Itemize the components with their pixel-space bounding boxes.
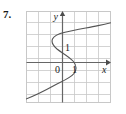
y-axis-label: y bbox=[53, 11, 59, 22]
problem-number: 7. bbox=[3, 9, 11, 20]
exercise-figure-container: 7. bbox=[0, 0, 126, 114]
y-unit-label: 1 bbox=[65, 42, 70, 53]
graph-figure: 0 1 1 y x bbox=[26, 11, 111, 103]
x-axis-label: x bbox=[101, 64, 107, 75]
x-unit-label: 1 bbox=[72, 64, 77, 75]
origin-label: 0 bbox=[55, 64, 60, 75]
